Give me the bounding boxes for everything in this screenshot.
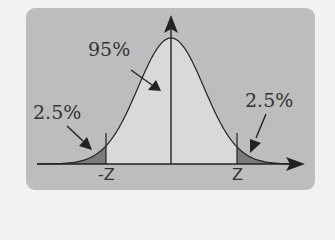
pos-z-tick-label: Z xyxy=(232,167,243,183)
neg-z-tick-label: -Z xyxy=(98,167,115,183)
left-tail-percent-label: 2.5% xyxy=(33,103,81,122)
center-percent-label: 95% xyxy=(88,40,130,59)
right-tail-percent-label: 2.5% xyxy=(245,91,293,110)
